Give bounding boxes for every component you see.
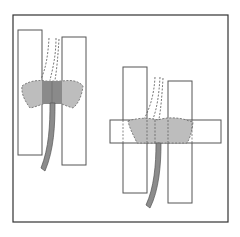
left-figure bbox=[18, 30, 86, 171]
dashed-guide bbox=[50, 38, 56, 80]
fiber bbox=[41, 103, 55, 171]
fiber bbox=[146, 143, 161, 208]
outer-frame bbox=[13, 15, 228, 222]
dashed-guide bbox=[159, 78, 163, 119]
diagram-canvas bbox=[0, 0, 240, 237]
right-figure bbox=[110, 67, 221, 208]
spread-region bbox=[128, 118, 193, 143]
dashed-guide bbox=[153, 77, 160, 119]
